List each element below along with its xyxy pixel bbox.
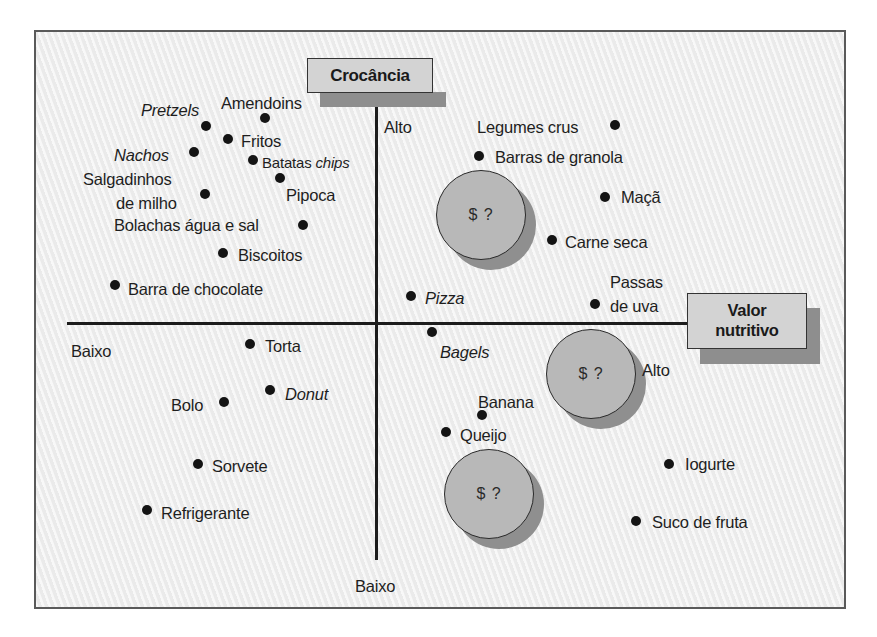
data-point-marker [265,385,275,395]
nutrition-low-label: Baixo [71,343,111,360]
data-point-marker [193,459,203,469]
item-label-iogurte: Iogurte [685,456,735,473]
opportunity-bubble-label: $ ? [476,485,501,503]
item-label-maca: Maçã [621,189,661,206]
item-label-refrigerante: Refrigerante [161,505,249,522]
item-label-sorvete: Sorvete [212,458,267,475]
opportunity-bubble: $ ? [444,449,534,539]
item-label-pizza: Pizza [425,290,464,307]
item-label-biscoitos: Biscoitos [238,247,302,264]
opportunity-bubble: $ ? [546,329,636,419]
item-label-barra-chocolate: Barra de chocolate [128,281,263,298]
item-label-bagels: Bagels [440,344,489,361]
item-label-nachos: Nachos [114,147,169,164]
opportunity-bubble-label: $ ? [468,206,493,224]
nutrition-high-label: Alto [642,362,670,379]
item-label-pipoca: Pipoca [286,187,335,204]
opportunity-bubble-label: $ ? [578,365,603,383]
opportunity-bubble: $ ? [436,170,526,260]
data-point-marker [219,397,229,407]
data-point-marker [142,505,152,515]
nutrition-title-line1: Valor [728,301,767,321]
data-point-marker [260,113,270,123]
data-point-marker [427,327,437,337]
nutrition-axis-title: Valor nutritivo [687,293,807,349]
crunchiness-title-shadow [320,92,446,107]
data-point-marker [474,151,484,161]
crunchiness-high-label: Alto [384,119,412,136]
data-point-marker [600,192,610,202]
data-point-marker [406,291,416,301]
data-point-marker [245,339,255,349]
item-label-barras-granola: Barras de granola [495,149,623,166]
data-point-marker [218,248,228,258]
data-point-marker [477,410,487,420]
nutrition-title-line2: nutritivo [715,321,778,341]
item-label-pretzels: Pretzels [141,102,199,119]
data-point-marker [201,121,211,131]
item-label-suco-fruta: Suco de fruta [652,514,748,531]
item-label-batatas: Batatas [262,154,315,171]
item-label-batatas-chips: Batatas chips [262,155,349,170]
nutrition-axis [67,322,689,325]
item-label-donut: Donut [285,386,328,403]
item-label-amendoins: Amendoins [221,95,302,112]
data-point-marker [547,235,557,245]
item-label-carne-seca: Carne seca [565,234,647,251]
data-point-marker [275,173,285,183]
data-point-marker [298,220,308,230]
data-point-marker [610,120,620,130]
data-point-marker [200,189,210,199]
data-point-marker [110,280,120,290]
item-label-torta: Torta [265,338,301,355]
data-point-marker [590,299,600,309]
data-point-marker [664,459,674,469]
item-label-banana: Banana [478,394,534,411]
item-label-queijo: Queijo [460,427,507,444]
item-label-passas-line1: Passas [610,274,663,291]
item-label-salgadinhos-line1: Salgadinhos [83,171,172,188]
item-label-bolachas: Bolachas água e sal [114,217,259,234]
data-point-marker [441,427,451,437]
item-label-passas-line2: de uva [610,298,658,315]
item-label-salgadinhos-line2: de milho [116,195,177,212]
crunchiness-axis [375,92,378,560]
crunchiness-title-text: Crocância [330,66,410,86]
crunchiness-axis-title: Crocância [307,58,433,93]
crunchiness-low-label: Baixo [355,578,395,595]
item-label-chips: chips [315,154,349,171]
data-point-marker [248,155,258,165]
data-point-marker [189,147,199,157]
item-label-fritos: Fritos [241,133,281,150]
item-label-legumes-crus: Legumes crus [477,119,578,136]
item-label-bolo: Bolo [171,397,203,414]
data-point-marker [223,134,233,144]
data-point-marker [631,516,641,526]
